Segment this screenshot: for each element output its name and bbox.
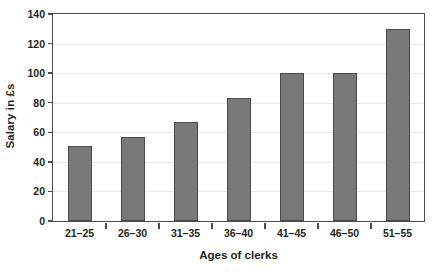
y-axis-tick [48, 191, 53, 192]
x-axis-tick-label: 21–25 [50, 228, 110, 239]
y-axis-tick [48, 132, 53, 133]
gridline [53, 73, 424, 74]
y-axis-tick [48, 43, 53, 44]
plot-area [52, 13, 425, 222]
bar [68, 146, 92, 221]
y-axis-tick [48, 161, 53, 162]
y-axis-tick [48, 220, 53, 221]
gridline [53, 44, 424, 45]
y-axis-tick [48, 72, 53, 73]
bar [280, 73, 304, 221]
x-axis-tick-label: 51–55 [368, 228, 428, 239]
bar [333, 73, 357, 221]
x-axis-tick-label: 41–45 [262, 228, 322, 239]
x-axis-tick-label: 46–50 [315, 228, 375, 239]
y-axis-title: Salary in £s [0, 0, 20, 232]
x-axis-tick-label: 31–35 [156, 228, 216, 239]
x-axis-tick-labels: 21–2526–3031–3536–4041–4546–5051–55 [0, 228, 435, 244]
y-axis-tick [48, 13, 53, 14]
x-axis-title: Ages of clerks [52, 249, 425, 261]
bar [121, 137, 145, 221]
bar [227, 98, 251, 221]
bar [386, 29, 410, 221]
bar-chart: Salary in £s 020406080100120140 21–2526–… [0, 0, 435, 273]
bar [174, 122, 198, 221]
y-axis-tick [48, 102, 53, 103]
x-axis-tick-label: 36–40 [209, 228, 269, 239]
x-axis-tick-label: 26–30 [103, 228, 163, 239]
y-axis-title-label: Salary in £s [4, 83, 16, 148]
